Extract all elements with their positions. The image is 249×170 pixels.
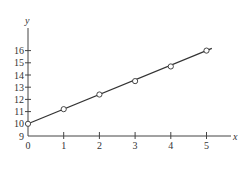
chart: 012345910111213141516 y x bbox=[0, 0, 249, 170]
x-tick-label: 0 bbox=[26, 140, 31, 151]
data-point bbox=[97, 92, 102, 97]
data-point bbox=[25, 121, 30, 126]
y-tick-label: 14 bbox=[14, 70, 24, 81]
y-tick-label: 11 bbox=[14, 106, 24, 117]
y-tick-label: 9 bbox=[19, 131, 24, 142]
data-point bbox=[133, 79, 138, 84]
y-axis-label: y bbox=[24, 15, 30, 26]
axes: 012345910111213141516 bbox=[14, 28, 231, 151]
data-point bbox=[168, 64, 173, 69]
y-tick-label: 12 bbox=[14, 94, 24, 105]
y-tick-label: 15 bbox=[14, 57, 24, 68]
x-tick-label: 4 bbox=[168, 140, 173, 151]
y-tick-label: 10 bbox=[14, 118, 24, 129]
series bbox=[25, 48, 211, 126]
data-point bbox=[204, 48, 209, 53]
x-tick-label: 3 bbox=[133, 140, 138, 151]
y-tick-label: 13 bbox=[14, 82, 24, 93]
y-tick-label: 16 bbox=[14, 45, 24, 56]
x-axis-label: x bbox=[232, 131, 238, 142]
x-tick-label: 5 bbox=[204, 140, 209, 151]
line-chart: 012345910111213141516 y x bbox=[0, 0, 249, 170]
fitted-line bbox=[28, 48, 212, 123]
x-tick-label: 2 bbox=[97, 140, 102, 151]
data-point bbox=[61, 107, 66, 112]
x-tick-label: 1 bbox=[61, 140, 66, 151]
